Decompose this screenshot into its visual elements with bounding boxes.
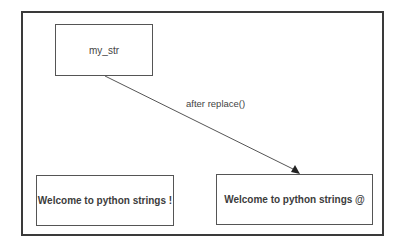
node-label: Welcome to python strings @ [224, 194, 365, 205]
node-label: my_str [89, 45, 119, 56]
node-replaced-string: Welcome to python strings @ [216, 174, 373, 225]
node-my-str: my_str [55, 24, 153, 76]
node-original-string: Welcome to python strings ! [36, 175, 174, 226]
edge-label: after replace() [186, 98, 245, 109]
arrowhead-icon [291, 165, 300, 174]
node-label: Welcome to python strings ! [38, 195, 172, 206]
